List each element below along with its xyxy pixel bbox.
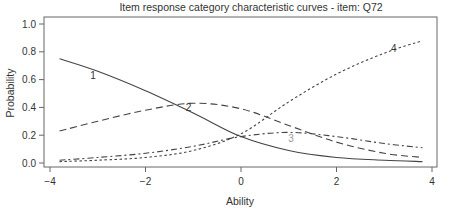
curve-label-2: 2 [186,102,192,113]
curve-category-3 [60,132,423,160]
curve-label-4: 4 [391,43,397,54]
y-tick-label: 0.2 [22,130,36,141]
icc-chart: Item response category characteristic cu… [0,0,470,212]
curve-category-4 [60,41,423,162]
y-tick-label: 1.0 [22,19,36,30]
y-axis-label: Probability [4,68,16,118]
curve-category-2 [60,103,423,157]
y-tick-label: 0.8 [22,46,36,57]
x-tick-label: 2 [334,176,340,187]
chart-title: Item response category characteristic cu… [119,1,382,13]
curve-label-3: 3 [288,133,294,144]
x-tick-label: −4 [44,176,56,187]
plot-frame [44,17,437,167]
x-tick-label: −2 [140,176,152,187]
curve-category-1 [60,59,423,162]
y-tick-label: 0.0 [22,158,36,169]
x-axis-label: Ability [226,195,255,207]
x-tick-label: 4 [429,176,435,187]
y-tick-label: 0.6 [22,74,36,85]
curve-label-1: 1 [90,70,96,81]
y-tick-label: 0.4 [22,102,36,113]
x-tick-label: 0 [238,176,244,187]
chart-container: Item response category characteristic cu… [0,0,470,212]
